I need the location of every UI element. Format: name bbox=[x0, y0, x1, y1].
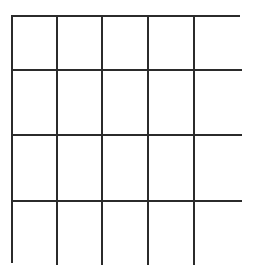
grid-cell bbox=[13, 17, 58, 71]
grid-cell bbox=[149, 136, 195, 202]
grid-cell bbox=[195, 17, 242, 71]
blank-grid-table bbox=[11, 15, 240, 263]
grid-cell bbox=[58, 17, 103, 71]
grid-cell bbox=[195, 71, 242, 136]
grid-cell bbox=[103, 136, 149, 202]
grid-cell bbox=[58, 71, 103, 136]
grid-cell bbox=[13, 71, 58, 136]
grid-cell bbox=[149, 17, 195, 71]
grid-cell bbox=[103, 202, 149, 265]
grid-cell bbox=[195, 136, 242, 202]
grid-cell bbox=[58, 136, 103, 202]
grid-cell bbox=[149, 202, 195, 265]
grid-cell bbox=[103, 71, 149, 136]
grid-cell bbox=[13, 136, 58, 202]
grid-cell bbox=[103, 17, 149, 71]
grid-cell bbox=[149, 71, 195, 136]
grid-cell bbox=[58, 202, 103, 265]
grid-cell bbox=[195, 202, 242, 265]
grid-cell bbox=[13, 202, 58, 265]
